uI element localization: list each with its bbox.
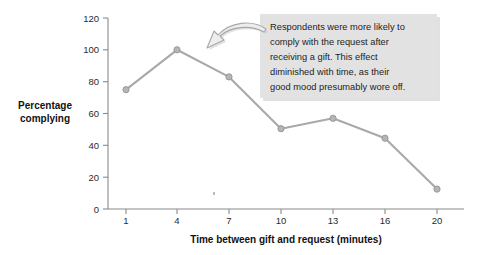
annotation-line-4: diminished with time, as their (270, 67, 389, 77)
x-tick-label-1: 1 (123, 215, 128, 226)
x-tick-label-16: 16 (380, 215, 391, 226)
y-tick-label-60: 60 (88, 108, 99, 119)
y-tick-label-40: 40 (88, 140, 99, 151)
stray-speck (213, 192, 215, 195)
y-tick-label-120: 120 (83, 13, 99, 24)
x-tick-label-4: 4 (174, 215, 179, 226)
y-tick-label-80: 80 (88, 76, 99, 87)
y-axis-title: Percentage complying (8, 99, 82, 125)
data-point-7 (226, 74, 232, 80)
x-tick-label-13: 13 (328, 215, 339, 226)
line-chart-canvas: 120 100 80 60 40 20 0 1 4 7 10 13 16 20 (0, 0, 478, 255)
data-point-16 (382, 135, 388, 141)
data-point-1 (123, 87, 129, 93)
y-tick-label-100: 100 (83, 44, 99, 55)
x-tick-label-7: 7 (226, 215, 231, 226)
y-axis-title-line1: Percentage (8, 99, 82, 112)
y-tick-label-0: 0 (94, 204, 99, 215)
annotation-line-1: Respondents were more likely to (270, 22, 405, 32)
data-point-13 (330, 115, 336, 121)
data-point-20 (434, 186, 440, 192)
x-axis-ticks: 1 4 7 10 13 16 20 (123, 209, 442, 226)
callout-arrow-icon (207, 23, 266, 48)
annotation-line-3: receiving a gift. This effect (270, 52, 378, 62)
y-axis-ticks: 120 100 80 60 40 20 0 (83, 13, 108, 215)
data-point-4 (174, 47, 180, 53)
annotation-line-5: good mood presumably wore off. (270, 82, 405, 92)
x-axis-title: Time between gift and request (minutes) (190, 234, 382, 245)
x-tick-label-20: 20 (432, 215, 443, 226)
data-point-10 (278, 126, 284, 132)
y-tick-label-20: 20 (88, 172, 99, 183)
chart-figure: Percentage complying 120 100 80 60 40 20… (0, 0, 478, 255)
y-axis-title-line2: complying (8, 112, 82, 125)
x-tick-label-10: 10 (276, 215, 287, 226)
annotation-line-2: comply with the request after (270, 37, 389, 47)
